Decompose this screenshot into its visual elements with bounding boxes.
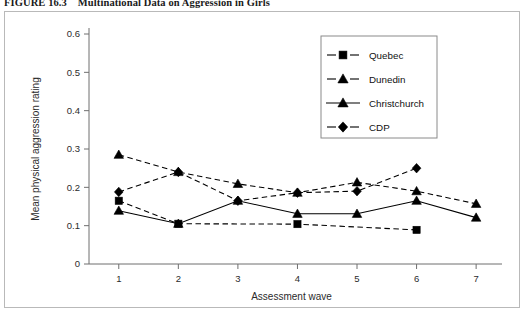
y-axis-tick-label: 0.4: [67, 105, 80, 116]
figure-caption: FIGURE 16.3 Multinational Data on Aggres…: [4, 0, 270, 8]
y-axis-title: Mean physical aggression rating: [30, 77, 41, 220]
figure-number: FIGURE 16.3: [4, 0, 67, 8]
x-axis-tick-label: 6: [414, 273, 419, 284]
data-point-cdp-w1: [114, 187, 123, 197]
y-axis-tick-label: 0.1: [67, 220, 80, 231]
series-quebec: [115, 197, 420, 233]
y-axis-tick-label: 0: [75, 258, 80, 269]
data-point-quebec-w1: [115, 197, 122, 204]
y-axis-tick-label: 0.6: [67, 28, 80, 39]
data-point-christchurch-w1: [114, 206, 124, 214]
data-point-cdp-w6: [412, 163, 421, 173]
y-axis-tick-label: 0.2: [67, 182, 80, 193]
figure-root: FIGURE 16.3 Multinational Data on Aggres…: [0, 0, 525, 313]
legend-marker-quebec: [339, 51, 347, 59]
legend-label-dunedin: Dunedin: [369, 74, 406, 85]
data-point-quebec-w4: [294, 221, 301, 228]
line-chart: 00.10.20.30.40.50.6Mean physical aggress…: [5, 12, 519, 307]
data-point-quebec-w6: [413, 226, 420, 233]
legend-label-quebec: Quebec: [369, 50, 403, 61]
x-axis-tick-label: 3: [235, 273, 240, 284]
y-axis-tick-label: 0.3: [67, 143, 80, 154]
y-axis-tick-label: 0.5: [67, 67, 80, 78]
x-axis-title: Assessment wave: [251, 291, 332, 302]
x-axis-tick-label: 1: [116, 273, 121, 284]
data-point-cdp-w5: [353, 186, 362, 196]
data-point-dunedin-w1: [114, 150, 124, 158]
data-point-dunedin-w5: [352, 178, 362, 186]
legend-label-cdp: CDP: [369, 122, 390, 133]
x-axis-tick-label: 2: [176, 273, 181, 284]
x-axis-tick-label: 5: [354, 273, 359, 284]
chart-legend: QuebecDunedinChristchurchCDP: [321, 36, 437, 138]
x-axis-tick-label: 7: [473, 273, 478, 284]
series-line-cdp: [119, 168, 417, 201]
x-axis-tick-label: 4: [295, 273, 300, 284]
figure-frame: 00.10.20.30.40.50.6Mean physical aggress…: [4, 11, 520, 308]
data-point-christchurch-w6: [412, 196, 422, 204]
series-dunedin: [114, 150, 481, 207]
series-line-quebec: [119, 201, 417, 230]
legend-label-christchurch: Christchurch: [369, 98, 424, 109]
figure-title: Multinational Data on Aggression in Girl…: [78, 0, 270, 8]
